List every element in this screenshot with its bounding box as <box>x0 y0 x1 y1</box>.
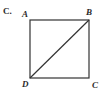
vertex-label-d: D <box>22 80 29 89</box>
vertex-label-c: C <box>92 81 98 90</box>
geometry-figure: C. A B D C <box>0 0 100 94</box>
diagonal-db <box>30 20 89 78</box>
vertex-label-b: B <box>86 8 92 17</box>
square-diagram <box>0 0 100 94</box>
vertex-label-a: A <box>22 10 28 19</box>
